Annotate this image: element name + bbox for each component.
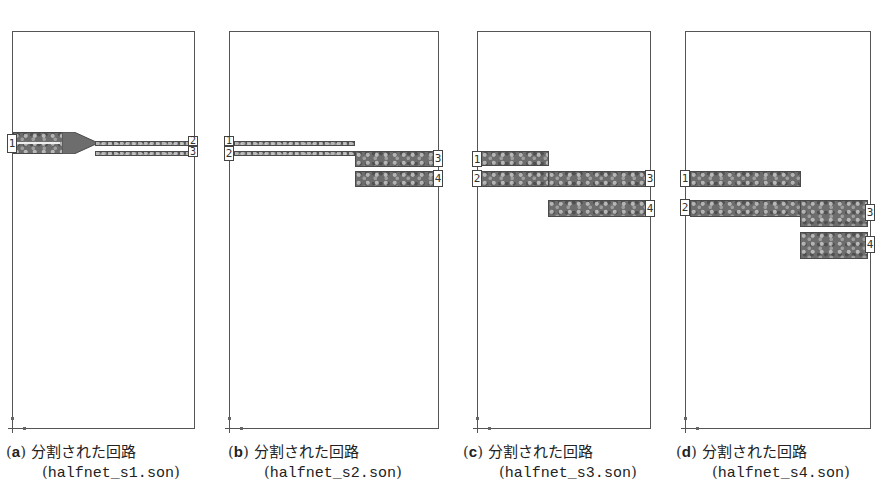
circuit-panel-d <box>685 31 871 429</box>
origin-tick-b2 <box>240 427 243 430</box>
origin-marker-x-d <box>681 428 695 429</box>
trace-block-2-d <box>690 200 801 217</box>
file-close-paren: ) <box>844 463 850 481</box>
port-label-4: 4 <box>645 200 655 217</box>
origin-tick-a <box>11 417 14 420</box>
caption-title: 分割された回路 <box>254 443 359 461</box>
port-label-1: 1 <box>7 134 17 153</box>
origin-tick-a2 <box>23 427 26 430</box>
caption-filename: halfnet_s3.son <box>505 465 631 482</box>
trace-block-4-c <box>548 200 647 217</box>
origin-tick-c <box>476 417 479 420</box>
caption-letter: d <box>682 443 691 460</box>
trace-line-1-b <box>234 141 355 146</box>
caption-letter: a <box>12 443 20 460</box>
port-label-4: 4 <box>433 170 443 187</box>
trace-block-2-c <box>481 171 549 187</box>
caption-b: (b) 分割された回路 (halfnet_s2.son) <box>228 442 402 484</box>
caption-close-paren: ) <box>243 443 249 461</box>
origin-tick-b <box>228 417 231 420</box>
trace-block-1-c <box>481 151 549 166</box>
caption-c: (c) 分割された回路 (halfnet_s3.son) <box>463 442 637 484</box>
port-label-1: 1 <box>224 136 234 146</box>
trace-output-line-3-a <box>95 151 192 156</box>
port-label-3: 3 <box>433 150 443 167</box>
caption-filename: halfnet_s1.son <box>48 465 174 482</box>
caption-close-paren: ) <box>691 443 697 461</box>
caption-filename: halfnet_s2.son <box>270 465 396 482</box>
circuit-panel-b <box>229 31 439 429</box>
caption-filename: halfnet_s4.son <box>718 465 844 482</box>
trace-block-4-b <box>355 171 435 187</box>
port-label-2: 2 <box>188 136 198 146</box>
origin-marker-x-a <box>8 428 22 429</box>
file-close-paren: ) <box>174 463 180 481</box>
origin-marker-x-b <box>225 428 239 429</box>
port-label-1: 1 <box>472 151 482 167</box>
caption-title: 分割された回路 <box>31 443 136 461</box>
port-label-2: 2 <box>680 199 690 216</box>
trace-block-3-d <box>800 200 868 227</box>
origin-tick-d <box>684 417 687 420</box>
origin-tick-d2 <box>696 427 699 430</box>
origin-tick-c2 <box>488 427 491 430</box>
trace-line-2-b <box>234 151 355 156</box>
circuit-panel-a <box>12 31 195 429</box>
port-label-3: 3 <box>188 146 198 157</box>
caption-title: 分割された回路 <box>702 443 807 461</box>
port-label-2: 2 <box>472 170 482 187</box>
port-label-2: 2 <box>224 146 234 161</box>
origin-marker-x-c <box>473 428 487 429</box>
circuit-panel-c <box>477 31 651 429</box>
port-label-3: 3 <box>645 170 655 187</box>
taper-junction-a <box>62 132 96 154</box>
trace-output-line-2-a <box>95 141 192 146</box>
port-label-1: 1 <box>680 170 690 187</box>
caption-letter: c <box>469 443 477 460</box>
file-close-paren: ) <box>396 463 402 481</box>
caption-letter: b <box>234 443 243 460</box>
caption-a: (a) 分割された回路 (halfnet_s1.son) <box>6 442 180 484</box>
trace-block-3-b <box>355 151 435 167</box>
caption-close-paren: ) <box>20 443 26 461</box>
caption-close-paren: ) <box>477 443 483 461</box>
trace-block-1-d <box>690 171 801 187</box>
caption-d: (d) 分割された回路 (halfnet_s4.son) <box>676 442 850 484</box>
caption-title: 分割された回路 <box>488 443 593 461</box>
file-close-paren: ) <box>631 463 637 481</box>
port-label-4: 4 <box>865 236 875 253</box>
port-label-3: 3 <box>865 204 875 221</box>
trace-block-2b-c <box>548 171 647 187</box>
trace-inner-line-a <box>17 142 60 144</box>
trace-block-4-d <box>800 232 868 259</box>
